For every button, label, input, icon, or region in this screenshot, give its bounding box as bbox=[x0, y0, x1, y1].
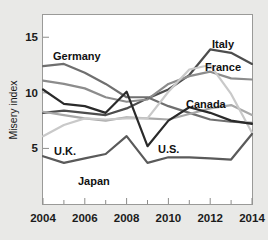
x-tick-label: 2014 bbox=[239, 212, 265, 224]
chart-canvas: 51015 200420062008201020122014 Misery in… bbox=[0, 0, 268, 240]
series-label-canada: Canada bbox=[186, 98, 227, 110]
y-tick-label: 15 bbox=[25, 31, 38, 43]
misery-index-chart: 51015 200420062008201020122014 Misery in… bbox=[0, 0, 268, 240]
series-label-u-s: U.S. bbox=[158, 143, 179, 155]
x-tick-label: 2012 bbox=[197, 212, 223, 224]
series-label-japan: Japan bbox=[78, 175, 110, 187]
y-tick-label: 5 bbox=[32, 142, 39, 154]
x-tick-label: 2008 bbox=[114, 212, 140, 224]
series-label-france: France bbox=[205, 61, 241, 73]
series-label-u-k: U.K. bbox=[54, 145, 76, 157]
x-tick-label: 2006 bbox=[72, 212, 98, 224]
y-axis-title: Misery index bbox=[7, 80, 19, 140]
series-label-italy: Italy bbox=[212, 38, 235, 50]
x-tick-label: 2010 bbox=[156, 212, 182, 224]
y-tick-label: 10 bbox=[25, 87, 38, 99]
series-label-germany: Germany bbox=[53, 50, 102, 62]
x-tick-label: 2004 bbox=[30, 212, 56, 224]
